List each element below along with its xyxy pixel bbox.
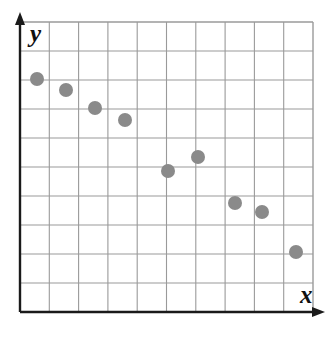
plot-canvas: y x <box>0 0 332 348</box>
data-point <box>118 113 132 127</box>
data-point <box>30 72 44 86</box>
data-point <box>191 150 205 164</box>
y-axis-label: y <box>27 20 42 47</box>
data-point <box>289 245 303 259</box>
data-point <box>161 164 175 178</box>
data-point <box>255 205 269 219</box>
x-axis-label: x <box>299 281 313 308</box>
data-point <box>88 101 102 115</box>
scatter-plot-figure: y x <box>0 0 332 348</box>
data-point <box>228 196 242 210</box>
data-point <box>59 83 73 97</box>
